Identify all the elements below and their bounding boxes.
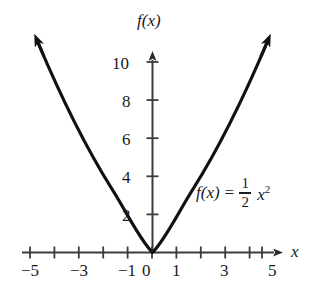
y-tick-label-10: 10 <box>112 55 129 72</box>
x-axis-label: x <box>291 243 299 260</box>
x-tick-label-3: 3 <box>220 262 229 279</box>
x-tick-label-neg3: −3 <box>70 262 88 279</box>
x-tick-label-0: 0 <box>142 262 151 279</box>
equation-variable-exponent: 2 <box>265 183 271 195</box>
equation-fraction: 1 2 <box>239 176 251 210</box>
y-axis-label-text: f(x) <box>137 11 161 30</box>
y-tick-label-2: 2 <box>122 207 131 224</box>
y-axis-label: f(x) <box>137 12 161 29</box>
x-axis-label-text: x <box>291 242 299 261</box>
fraction-numerator: 1 <box>239 176 251 191</box>
parabola-figure: f(x) x 2 4 6 8 10 −5 −3 −1 0 1 3 5 f(x) … <box>0 0 328 298</box>
equation-equals-sign: = <box>225 184 235 201</box>
curve-right-arrowhead <box>261 44 266 57</box>
equation-variable-base: x <box>257 184 265 203</box>
x-tick-label-5: 5 <box>268 262 277 279</box>
y-tick-label-6: 6 <box>122 131 131 148</box>
fraction-denominator: 2 <box>239 195 251 210</box>
x-tick-label-1: 1 <box>172 262 181 279</box>
equation-variable: x2 <box>257 184 270 203</box>
x-tick-label-neg5: −5 <box>21 262 39 279</box>
plot-canvas <box>0 0 328 298</box>
y-tick-label-4: 4 <box>122 169 131 186</box>
equation-function-name: f(x) <box>196 184 220 201</box>
curve-left-arrowhead <box>39 44 44 57</box>
x-tick-label-neg1: −1 <box>118 262 136 279</box>
function-equation-annotation: f(x) = 1 2 x2 <box>196 176 270 210</box>
y-tick-label-8: 8 <box>122 93 131 110</box>
